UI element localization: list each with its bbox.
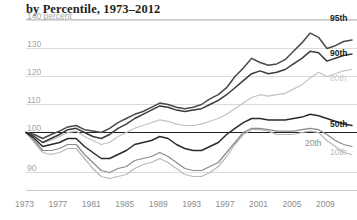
series-label-20th: 20th (305, 138, 322, 148)
y-tick-120: 120 (27, 67, 41, 77)
x-tick-1989: 1989 (149, 199, 168, 209)
series-label-80th: 80th (330, 73, 347, 83)
x-tick-1977: 1977 (48, 199, 67, 209)
series-line-80th (26, 70, 352, 145)
series-line-90th (26, 51, 352, 142)
x-tick-1993: 1993 (182, 199, 201, 209)
series-label-95th: 95th (330, 13, 347, 23)
series-label-90th: 90th (330, 48, 347, 58)
y-tick-140: 140 percent (27, 11, 72, 21)
series-label-10th: 10th (330, 147, 347, 157)
y-tick-100: 100 (27, 123, 41, 133)
y-tick-90: 90 (27, 163, 36, 173)
y-tick-110: 110 (27, 95, 41, 105)
x-tick-1973: 1973 (15, 199, 34, 209)
series-line-group (26, 33, 352, 178)
x-tick-1985: 1985 (115, 199, 134, 209)
chart-figure: by Percentile, 1973–2012 140 percent1301… (0, 0, 357, 220)
x-tick-1997: 1997 (216, 199, 235, 209)
series-line-50th (26, 114, 352, 158)
series-label-50th: 50th (330, 119, 347, 129)
x-tick-2005: 2005 (282, 199, 301, 209)
x-tick-1981: 1981 (82, 199, 101, 209)
x-tick-2001: 2001 (249, 199, 268, 209)
y-tick-130: 130 (27, 39, 41, 49)
series-line-20th (26, 128, 352, 172)
x-tick-2009: 2009 (316, 199, 335, 209)
line-chart-plot (0, 0, 357, 220)
series-line-10th (26, 130, 352, 179)
